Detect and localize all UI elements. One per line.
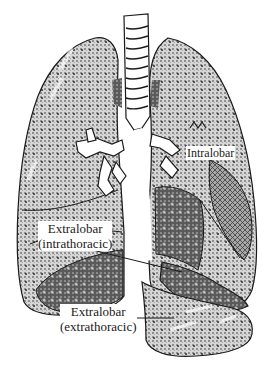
label-extralobar-extrathoracic: Extralobar (extrathoracic): [60, 304, 137, 334]
label-intralobar-text: Intralobar: [186, 146, 235, 160]
label-extralobar-intrathoracic-line1: Extralobar: [38, 221, 112, 236]
label-extralobar-extrathoracic-line1: Extralobar: [60, 304, 137, 319]
label-intralobar: Intralobar: [186, 146, 235, 161]
label-extralobar-intrathoracic-line2: (intrathoracic): [38, 236, 112, 251]
label-extralobar-extrathoracic-line2: (extrathoracic): [60, 319, 137, 334]
left-lung: [149, 38, 257, 315]
label-extralobar-intrathoracic: Extralobar (intrathoracic): [38, 221, 112, 251]
trachea: [124, 14, 152, 262]
